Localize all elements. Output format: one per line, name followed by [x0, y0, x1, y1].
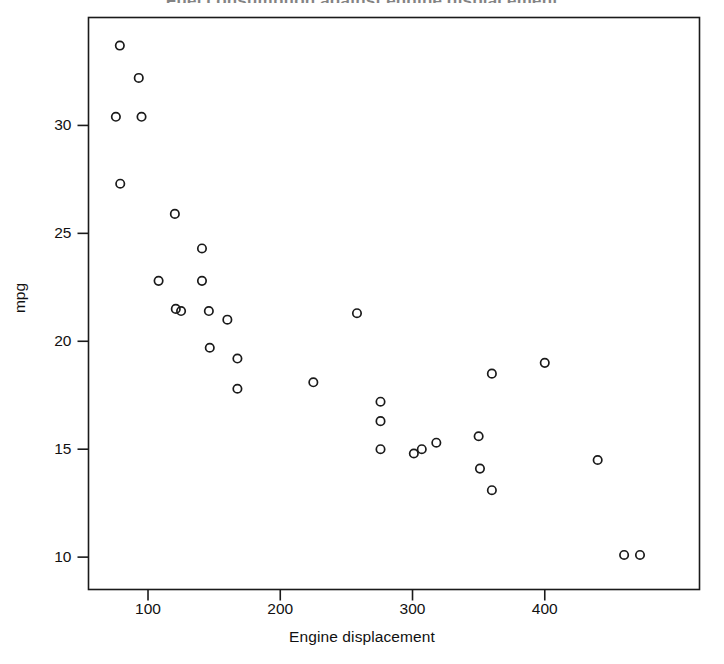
data-point — [154, 277, 162, 285]
data-point — [198, 244, 206, 252]
data-point — [353, 309, 361, 317]
data-point — [488, 369, 496, 377]
data-point-markers — [112, 41, 645, 559]
data-point — [474, 432, 482, 440]
data-point — [198, 277, 206, 285]
data-point — [116, 180, 124, 188]
data-point — [233, 385, 241, 393]
x-axis-title: Engine displacement — [0, 628, 724, 646]
data-point — [541, 359, 549, 367]
data-point — [410, 449, 418, 457]
y-axis-title: mpg — [11, 268, 29, 328]
y-tick-label: 30 — [28, 116, 72, 134]
data-point — [476, 464, 484, 472]
data-point — [233, 354, 241, 362]
data-point — [172, 305, 180, 313]
data-point — [593, 456, 601, 464]
data-point — [376, 398, 384, 406]
data-point — [432, 439, 440, 447]
plot-canvas — [0, 0, 724, 664]
data-point — [137, 113, 145, 121]
data-point — [376, 445, 384, 453]
data-point — [223, 315, 231, 323]
data-point — [116, 41, 124, 49]
scatter-plot-figure: Fuel consumption against engine displace… — [0, 0, 724, 664]
data-point — [620, 551, 628, 559]
data-point — [376, 417, 384, 425]
x-axis-ticks — [148, 590, 545, 601]
data-point — [171, 210, 179, 218]
y-tick-label: 25 — [28, 224, 72, 242]
data-point — [177, 307, 185, 315]
data-point — [418, 445, 426, 453]
x-tick-label: 400 — [515, 600, 575, 618]
x-tick-label: 200 — [250, 600, 310, 618]
x-tick-label: 100 — [118, 600, 178, 618]
data-point — [112, 113, 120, 121]
data-point — [206, 344, 214, 352]
y-tick-label: 20 — [28, 332, 72, 350]
y-tick-label: 10 — [28, 548, 72, 566]
x-tick-label: 300 — [383, 600, 443, 618]
y-axis-ticks — [78, 125, 89, 557]
data-point — [309, 378, 317, 386]
data-point — [205, 307, 213, 315]
data-point — [135, 74, 143, 82]
y-tick-label: 15 — [28, 440, 72, 458]
data-point — [636, 551, 644, 559]
plot-frame — [89, 18, 700, 590]
data-point — [488, 486, 496, 494]
